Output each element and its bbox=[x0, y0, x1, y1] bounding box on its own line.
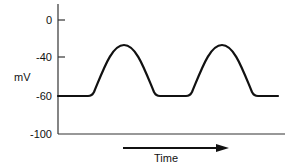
y-tick-label-0: 0 bbox=[46, 14, 52, 26]
y-tick-label-minus-60: -60 bbox=[36, 90, 52, 102]
y-axis-label: mV bbox=[14, 71, 31, 83]
membrane-potential-curve bbox=[58, 45, 278, 96]
y-tick-label-minus-40: -40 bbox=[36, 51, 52, 63]
x-axis-label: Time bbox=[154, 152, 178, 164]
chart: 0 -40 -60 -100 mV Time bbox=[0, 0, 292, 167]
y-tick-label-minus-100: -100 bbox=[30, 128, 52, 140]
arrow-right-icon bbox=[216, 144, 229, 152]
